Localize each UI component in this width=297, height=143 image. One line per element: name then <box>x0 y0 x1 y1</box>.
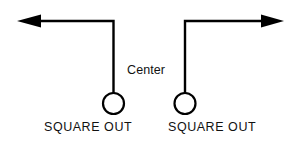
play-diagram: Center SQUARE OUT SQUARE OUT <box>0 0 297 143</box>
player-marker-left-receiver <box>103 93 124 114</box>
player-marker-right-receiver <box>175 93 196 114</box>
center-label: Center <box>127 64 165 77</box>
route-line-left-square-out <box>41 21 114 93</box>
route-line-right-square-out <box>185 21 262 93</box>
arrow-right-icon <box>261 15 284 28</box>
arrow-left-icon <box>17 15 41 28</box>
route-label-left: SQUARE OUT <box>44 121 132 134</box>
route-label-right: SQUARE OUT <box>168 121 256 134</box>
